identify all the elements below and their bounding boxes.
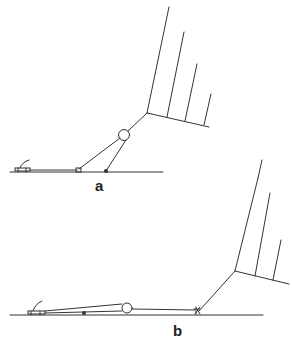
arm-upper-a: [128, 113, 147, 131]
strut-a: [106, 140, 126, 171]
diagram-canvas: [0, 0, 292, 345]
panel-label-a: a: [95, 178, 103, 193]
strut-upper-b: [45, 304, 122, 311]
frame-spine-top-b: [258, 160, 262, 178]
arm-b: [132, 309, 195, 310]
frame-b: [235, 178, 289, 284]
arm-a: [79, 138, 120, 169]
panel-label-b: b: [173, 323, 182, 338]
panel-a: [10, 7, 211, 173]
joint-circle-b: [122, 303, 132, 313]
panel-b: [10, 160, 289, 315]
foot-b: [28, 301, 45, 315]
foot-a: [15, 160, 30, 172]
frame-a: [147, 7, 211, 127]
arm-upper-b: [199, 271, 235, 311]
